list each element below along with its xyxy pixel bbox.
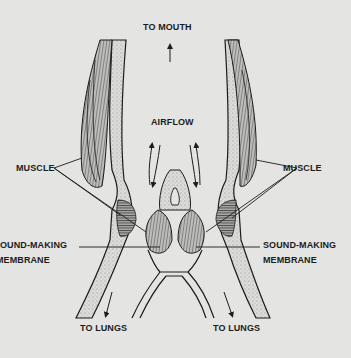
label-muscle-left: MUSCLE — [16, 163, 55, 174]
label-to-mouth: TO MOUTH — [143, 22, 192, 33]
central-structure — [132, 170, 214, 318]
label-to-lungs-left: TO LUNGS — [80, 323, 127, 334]
right-tube — [216, 40, 270, 318]
left-tube — [76, 40, 136, 318]
label-membrane-left-1: OUND-MAKING — [0, 240, 67, 251]
label-airflow: AIRFLOW — [151, 117, 194, 128]
label-to-lungs-right: TO LUNGS — [213, 323, 260, 334]
label-membrane-right-2: MEMBRANE — [263, 255, 317, 266]
label-muscle-right: MUSCLE — [283, 163, 322, 174]
syrinx-diagram — [0, 0, 351, 358]
label-membrane-left-2: MEMBRANE — [0, 255, 50, 266]
label-membrane-right-1: SOUND-MAKING — [263, 240, 336, 251]
